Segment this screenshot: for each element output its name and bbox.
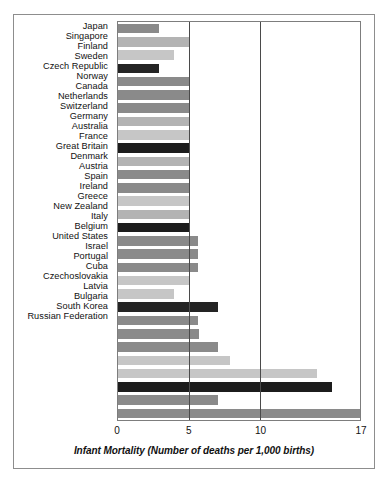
bar: [118, 50, 174, 60]
category-label: Netherlands: [58, 91, 108, 101]
category-label: Latvia: [83, 281, 108, 291]
category-label: Spain: [84, 171, 108, 181]
category-label-row: Russian Federation: [14, 311, 114, 321]
category-label: Cuba: [86, 261, 108, 271]
category-label: United States: [52, 231, 108, 241]
bar-row: [118, 141, 360, 154]
category-label: Switzerland: [60, 101, 108, 111]
category-label-row: Singapore: [14, 31, 114, 41]
bar: [118, 263, 198, 273]
gridline: [260, 22, 261, 420]
bar: [118, 183, 189, 193]
bar-row: [118, 393, 360, 406]
category-label-row: Bulgaria: [14, 291, 114, 301]
bar-row: [118, 248, 360, 261]
category-label: Russian Federation: [27, 311, 108, 321]
bar-row: [118, 274, 360, 287]
bar: [118, 157, 189, 167]
bar: [118, 395, 218, 405]
bar-row: [118, 35, 360, 48]
x-axis-title: Infant Mortality (Number of deaths per 1…: [14, 445, 374, 456]
category-label: Ireland: [80, 181, 108, 191]
bar-row: [118, 168, 360, 181]
category-label: Denmark: [70, 151, 108, 161]
bar-row: [118, 155, 360, 168]
category-label: Germany: [70, 111, 108, 121]
category-label-row: Latvia: [14, 281, 114, 291]
bar-row: [118, 234, 360, 247]
category-label-row: Norway: [14, 71, 114, 81]
x-tick-label: 10: [255, 425, 266, 436]
gridline: [189, 22, 190, 420]
category-label-row: Czech Republic: [14, 61, 114, 71]
x-axis-ticks: 051017: [117, 425, 361, 441]
category-label-row: Denmark: [14, 151, 114, 161]
category-label: Great Britain: [56, 141, 108, 151]
bar-row: [118, 62, 360, 75]
category-label-row: Germany: [14, 111, 114, 121]
category-label: New Zealand: [53, 201, 108, 211]
bar: [118, 24, 159, 34]
category-label-row: Sweden: [14, 51, 114, 61]
bar: [118, 90, 189, 100]
bar-row: [118, 75, 360, 88]
bar-row: [118, 340, 360, 353]
bar-row: [118, 380, 360, 393]
category-label-row: Israel: [14, 241, 114, 251]
bar-row: [118, 354, 360, 367]
bar-rows: [118, 22, 360, 420]
bar: [118, 356, 230, 366]
category-labels-column: JapanSingaporeFinlandSwedenCzech Republi…: [14, 21, 114, 421]
bar-row: [118, 327, 360, 340]
category-label: Finland: [78, 41, 108, 51]
category-label-row: South Korea: [14, 301, 114, 311]
bar-row: [118, 88, 360, 101]
bar: [118, 316, 198, 326]
category-label-row: Japan: [14, 21, 114, 31]
bar-row: [118, 115, 360, 128]
category-label-row: Spain: [14, 171, 114, 181]
bar-row: [118, 102, 360, 115]
category-label-row: Czechoslovakia: [14, 271, 114, 281]
bar-row: [118, 261, 360, 274]
bar: [118, 276, 189, 286]
bar-row: [118, 407, 360, 420]
category-label: Belgium: [74, 221, 108, 231]
bar-row: [118, 181, 360, 194]
bar: [118, 249, 198, 259]
category-label: Norway: [77, 71, 108, 81]
category-label: Canada: [76, 81, 108, 91]
category-label: Japan: [83, 21, 108, 31]
bar-row: [118, 208, 360, 221]
bar-row: [118, 314, 360, 327]
bar: [118, 77, 189, 87]
category-label: Czech Republic: [43, 61, 108, 71]
bar: [118, 236, 198, 246]
category-label-row: France: [14, 131, 114, 141]
bar-row: [118, 194, 360, 207]
category-label-row: New Zealand: [14, 201, 114, 211]
category-label-row: Switzerland: [14, 101, 114, 111]
category-label-row: Netherlands: [14, 91, 114, 101]
bar: [118, 223, 189, 233]
category-label: Greece: [78, 191, 108, 201]
plot-area: [117, 21, 361, 421]
x-tick-label: 0: [114, 425, 120, 436]
bar-row: [118, 287, 360, 300]
bar-row: [118, 22, 360, 35]
category-label: South Korea: [56, 301, 108, 311]
chart-figure: JapanSingaporeFinlandSwedenCzech Republi…: [13, 14, 375, 469]
bar: [118, 130, 189, 140]
bar: [118, 382, 332, 392]
category-label-row: Portugal: [14, 251, 114, 261]
category-label: Italy: [91, 211, 108, 221]
category-label-row: United States: [14, 231, 114, 241]
category-label: Portugal: [73, 251, 108, 261]
bar-row: [118, 221, 360, 234]
category-label: France: [79, 131, 108, 141]
chart-body: JapanSingaporeFinlandSwedenCzech Republi…: [14, 21, 374, 421]
category-label: Australia: [72, 121, 108, 131]
category-label-row: Italy: [14, 211, 114, 221]
category-label-row: Australia: [14, 121, 114, 131]
bar: [118, 342, 218, 352]
